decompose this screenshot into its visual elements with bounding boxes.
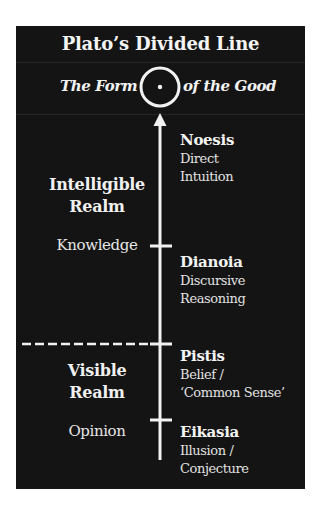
realm-label-line2: Realm xyxy=(27,196,167,218)
segment-desc-line2: ‘Common Sense’ xyxy=(180,384,285,402)
segment-desc-line1: Direct xyxy=(180,150,234,168)
intelligible-realm-label: Intelligible Realm xyxy=(27,174,167,218)
knowledge-label: Knowledge xyxy=(27,238,167,253)
opinion-label: Opinion xyxy=(27,424,167,439)
segment-name: Pistis xyxy=(180,346,285,366)
segment-noesis: Noesis Direct Intuition xyxy=(180,130,234,185)
segment-name: Dianoia xyxy=(180,252,245,272)
segment-pistis: Pistis Belief / ‘Common Sense’ xyxy=(180,346,285,401)
divided-line-diagram: Plato’s Divided Line The Form of the Goo… xyxy=(16,26,305,489)
segment-desc-line1: Belief / xyxy=(180,366,285,384)
segment-dianoia: Dianoia Discursive Reasoning xyxy=(180,252,245,307)
segment-eikasia: Eikasia Illusion / Conjecture xyxy=(180,422,249,477)
segment-desc-line2: Reasoning xyxy=(180,290,245,308)
visible-realm-label: Visible Realm xyxy=(27,360,167,404)
segment-name: Noesis xyxy=(180,130,234,150)
divided-line-graphic xyxy=(16,26,305,489)
realm-label-line1: Intelligible xyxy=(27,174,167,196)
segment-desc-line2: Conjecture xyxy=(180,460,249,478)
segment-name: Eikasia xyxy=(180,422,249,442)
realm-label-line2: Realm xyxy=(27,382,167,404)
segment-desc-line2: Intuition xyxy=(180,168,234,186)
segment-desc-line1: Illusion / xyxy=(180,442,249,460)
realm-label-line1: Visible xyxy=(27,360,167,382)
sun-circle-icon xyxy=(141,68,179,106)
segment-desc-line1: Discursive xyxy=(180,272,245,290)
vertical-line-arrow xyxy=(154,113,167,460)
